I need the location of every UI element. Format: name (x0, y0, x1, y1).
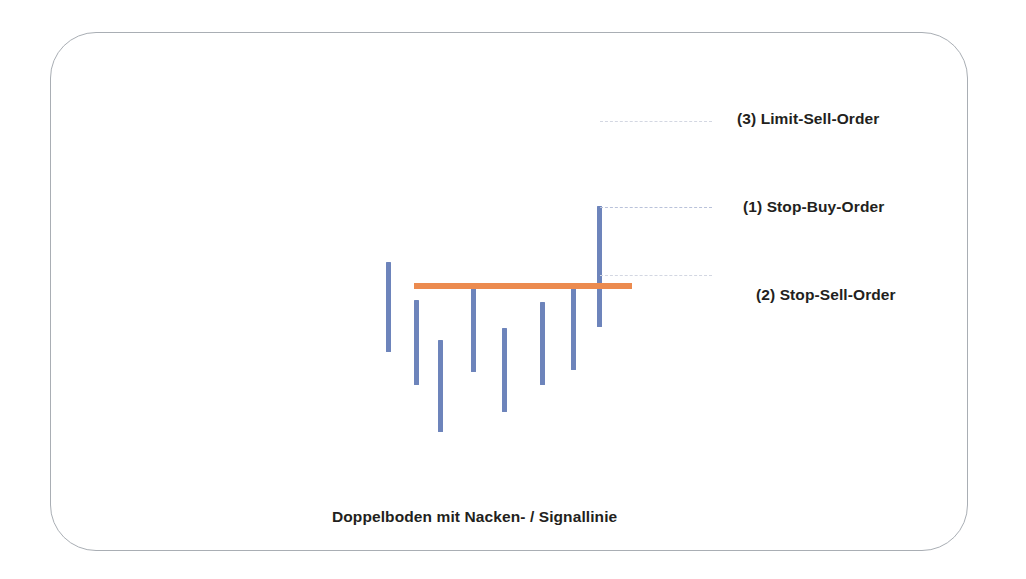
annotation-stop-sell-order: (2) Stop-Sell-Order (756, 286, 896, 304)
chart-caption: Doppelboden mit Nacken- / Signallinie (332, 508, 617, 526)
annotation-stop-buy-order: (1) Stop-Buy-Order (743, 198, 884, 216)
annotation-limit-sell-order: (3) Limit-Sell-Order (737, 110, 879, 128)
